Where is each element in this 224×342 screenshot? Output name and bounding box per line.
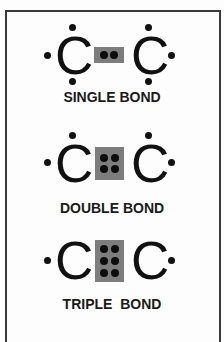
shared-electron	[100, 269, 108, 277]
lone-electron-right	[168, 52, 175, 59]
lone-electron-left	[44, 159, 51, 166]
carbon-atom-right: C	[131, 234, 167, 287]
carbon-atom-left: C	[55, 29, 91, 82]
lone-electron-top-right	[145, 132, 152, 139]
shared-pair-box	[95, 147, 124, 180]
carbon-atom-right: C	[131, 29, 167, 82]
shared-pair-box	[94, 47, 124, 63]
shared-electron	[110, 51, 118, 59]
single-bond-label: SINGLE BOND	[0, 90, 224, 104]
shared-electron	[100, 165, 108, 173]
double-bond-label: DOUBLE BOND	[0, 201, 224, 215]
carbon-atom-left: C	[55, 234, 91, 287]
shared-electron	[111, 269, 119, 277]
shared-electron	[100, 245, 108, 253]
shared-pair-box	[95, 240, 124, 282]
lone-electron-left	[44, 257, 51, 264]
shared-electron	[100, 257, 108, 265]
shared-electron	[100, 51, 108, 59]
shared-electron	[111, 154, 119, 162]
lone-electron-top-right	[145, 24, 152, 31]
shared-electron	[111, 245, 119, 253]
triple-bond-label: TRIPLE BOND	[0, 297, 224, 311]
shared-electron	[111, 165, 119, 173]
lone-electron-right	[168, 159, 175, 166]
shared-electron	[100, 154, 108, 162]
lone-electron-bottom-right	[145, 78, 152, 85]
lone-electron-left	[44, 52, 51, 59]
shared-electron	[111, 257, 119, 265]
lone-electron-right	[168, 257, 175, 264]
carbon-atom-right: C	[131, 137, 167, 190]
carbon-atom-left: C	[55, 137, 91, 190]
